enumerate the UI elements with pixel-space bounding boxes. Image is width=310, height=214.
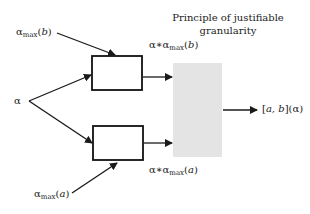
subscript: max <box>169 169 184 177</box>
amax-a-arrow <box>72 163 117 193</box>
subscript: max <box>41 193 56 201</box>
alpha-to-bottom-arrow <box>29 101 92 143</box>
arg: α <box>292 103 299 114</box>
diagram-title: Principle of justifiable granularity <box>153 11 303 37</box>
bottom-output-label: α∗αmax(a) <box>149 165 198 177</box>
top-output-label: α∗αmax(b) <box>149 40 198 52</box>
prefix: α∗α <box>149 39 169 50</box>
alpha-input-label: α <box>14 96 21 106</box>
arg: b <box>41 26 47 37</box>
amax-b-label: αmax(b) <box>16 27 52 39</box>
result-label: [a, b](α) <box>262 104 303 114</box>
bottom-operator-box <box>93 126 143 160</box>
title-line-1: Principle of justifiable <box>153 11 303 24</box>
prefix: α∗α <box>149 164 169 175</box>
symbol: α <box>34 188 41 199</box>
subscript: max <box>23 31 38 39</box>
arg: a <box>59 188 65 199</box>
subscript: max <box>169 44 184 52</box>
alpha-to-top-arrow <box>29 75 91 101</box>
justifiable-granularity-box <box>173 63 222 157</box>
arg: a <box>188 164 194 175</box>
amax-b-arrow <box>57 33 115 55</box>
arg: b <box>188 39 194 50</box>
amax-a-label: αmax(a) <box>34 189 69 201</box>
top-operator-box <box>92 56 142 90</box>
symbol: α <box>16 26 23 37</box>
interval: a, b <box>266 103 285 114</box>
title-line-2: granularity <box>153 24 303 37</box>
